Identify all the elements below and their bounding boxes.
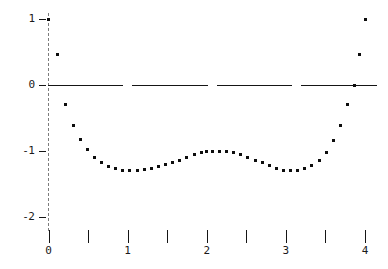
y-axis-tick — [39, 217, 46, 218]
data-point — [171, 161, 174, 164]
data-point — [296, 169, 299, 172]
zero-reference-line-segment — [48, 85, 124, 86]
data-point — [185, 156, 188, 159]
data-point — [150, 167, 153, 170]
y-axis-tick — [39, 85, 46, 86]
data-point — [225, 150, 228, 153]
x-axis-tick-minor — [246, 230, 247, 243]
data-point — [275, 167, 278, 170]
data-point — [72, 124, 75, 127]
data-point — [205, 150, 208, 153]
zero-reference-line-segment — [132, 85, 208, 86]
data-point — [93, 156, 96, 159]
data-point — [246, 156, 249, 159]
x-axis-tick-major — [207, 230, 208, 243]
y-axis-tick-label: 1 — [9, 13, 35, 24]
data-point — [100, 161, 103, 164]
x-axis-tick-label: 2 — [197, 245, 217, 256]
data-point — [310, 164, 313, 167]
data-point — [254, 159, 257, 162]
x-axis-tick-label: 4 — [355, 245, 375, 256]
data-point — [346, 103, 349, 106]
data-point — [325, 151, 328, 154]
zero-reference-line-segment — [301, 85, 377, 86]
data-point — [218, 150, 221, 153]
data-point — [261, 161, 264, 164]
data-point — [47, 18, 50, 21]
plot-area: 10-1-201234 — [0, 0, 388, 269]
data-point — [211, 150, 214, 153]
data-point — [353, 84, 356, 87]
data-point — [339, 124, 342, 127]
data-point — [268, 164, 271, 167]
data-point — [157, 165, 160, 168]
x-axis-tick-label: 1 — [118, 245, 138, 256]
y-axis-tick — [39, 19, 46, 20]
x-axis-tick-label: 0 — [39, 245, 59, 256]
data-point — [79, 138, 82, 141]
data-point — [358, 53, 361, 56]
data-point — [178, 159, 181, 162]
data-point — [193, 153, 196, 156]
x-axis-tick-major — [286, 230, 287, 243]
data-point — [56, 53, 59, 56]
y-axis-tick — [39, 151, 46, 152]
x-axis-tick-minor — [325, 230, 326, 243]
data-point — [86, 148, 89, 151]
y-axis-tick-label: -2 — [9, 211, 35, 222]
data-point — [64, 103, 67, 106]
x-axis-tick-major — [365, 230, 366, 243]
data-point — [128, 169, 131, 172]
x-axis-tick-major — [128, 230, 129, 243]
data-point — [332, 139, 335, 142]
data-point — [114, 167, 117, 170]
data-point — [282, 169, 285, 172]
x-axis-tick-label: 3 — [276, 245, 296, 256]
zero-reference-line-segment — [217, 85, 293, 86]
x-axis-tick-minor — [167, 230, 168, 243]
x-axis-tick-major — [49, 230, 50, 243]
data-point — [164, 163, 167, 166]
data-point — [289, 169, 292, 172]
scatter-plot-figure: 10-1-201234 — [0, 0, 388, 269]
y-axis-line — [48, 13, 49, 231]
data-point — [136, 169, 139, 172]
data-point — [232, 151, 235, 154]
x-axis-tick-minor — [88, 230, 89, 243]
data-point — [303, 167, 306, 170]
data-point — [107, 165, 110, 168]
data-point — [200, 151, 203, 154]
y-axis-tick-label: 0 — [9, 79, 35, 90]
data-point — [143, 168, 146, 171]
data-point — [318, 159, 321, 162]
data-point — [121, 169, 124, 172]
data-point — [364, 18, 367, 21]
data-point — [239, 153, 242, 156]
y-axis-tick-label: -1 — [9, 145, 35, 156]
